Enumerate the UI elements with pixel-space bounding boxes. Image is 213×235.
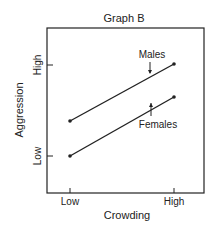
males-annotation: Males [139, 49, 166, 60]
females-arrowhead-icon [149, 103, 153, 107]
females-annotation: Females [139, 119, 177, 130]
chart: Graph B High Low Aggression Low High Cro… [0, 0, 213, 235]
males-point-high [172, 62, 176, 66]
x-tick-label-high: High [164, 196, 185, 207]
x-tick-label-low: Low [61, 196, 80, 207]
males-line [70, 64, 174, 121]
plot-frame [47, 28, 204, 193]
females-point-high [172, 95, 176, 99]
males-arrowhead-icon [148, 70, 152, 74]
chart-title: Graph B [104, 12, 145, 24]
x-axis-label: Crowding [104, 209, 150, 221]
y-tick-label-low: Low [32, 146, 43, 165]
y-tick-label-high: High [32, 55, 43, 76]
y-axis-label: Aggression [13, 82, 25, 137]
males-point-low [68, 119, 72, 123]
females-point-low [68, 154, 72, 158]
